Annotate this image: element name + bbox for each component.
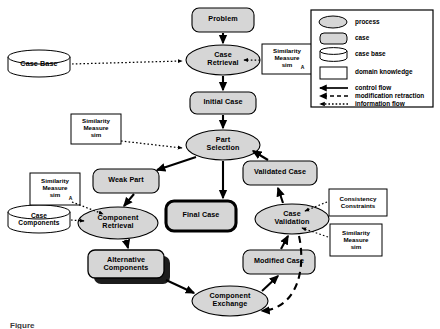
node-component-retrieval-shape: [78, 207, 158, 239]
node-modified-case-shape: [243, 250, 315, 274]
legend-process-swatch: [319, 16, 347, 28]
dk-consistency-constraints-shape: [329, 189, 387, 216]
node-weak-part-shape: [93, 169, 159, 193]
node-validated-case-shape: [243, 161, 317, 185]
node-case-retrieval-shape: [186, 45, 260, 75]
legend-domain-knowledge-swatch: [320, 67, 347, 79]
dk-sim-measure-retrieval-shape: [262, 44, 312, 74]
edge-alternative-to-component-exchange: [166, 280, 194, 293]
edge-part-selection-to-weak-part: [157, 157, 196, 170]
node-final-case-shape: [166, 201, 236, 231]
dk-sim-measure-component-shape: [30, 173, 80, 205]
node-problem-shape: [192, 8, 254, 32]
legend-case-swatch: [320, 33, 347, 44]
node-part-selection-shape: [186, 130, 260, 160]
edge-component-retrieval-to-alternative: [126, 240, 128, 248]
casebase-case-components-shape: [8, 205, 70, 233]
casebase-case-base-shape: [8, 50, 70, 77]
node-case-validation-shape: [255, 204, 329, 234]
dk-sim-measure-validation-shape: [330, 224, 382, 256]
edge-modified-case-to-case-validation: [281, 236, 288, 249]
edge-component-exchange-to-modified-case: [262, 276, 278, 291]
edge-case-validation-to-validated-case: [278, 188, 283, 203]
node-initial-case-shape: [190, 92, 256, 114]
node-alternative-components-shape: [88, 250, 164, 278]
edge-weak-part-to-component-retrieval: [124, 194, 134, 206]
diagram-canvas: Problem Case Retrieval Initial Case Part…: [0, 0, 440, 329]
diagram-vector-layer: [0, 0, 440, 329]
info-sim-part-to-part-selection: [121, 141, 182, 148]
node-component-exchange-shape: [192, 286, 268, 316]
edge-validated-case-to-part-selection: [253, 151, 268, 160]
legend-case-base-swatch: [320, 48, 347, 62]
dk-sim-measure-part-shape: [71, 114, 121, 144]
info-case-base-to-case-retrieval: [72, 61, 182, 64]
